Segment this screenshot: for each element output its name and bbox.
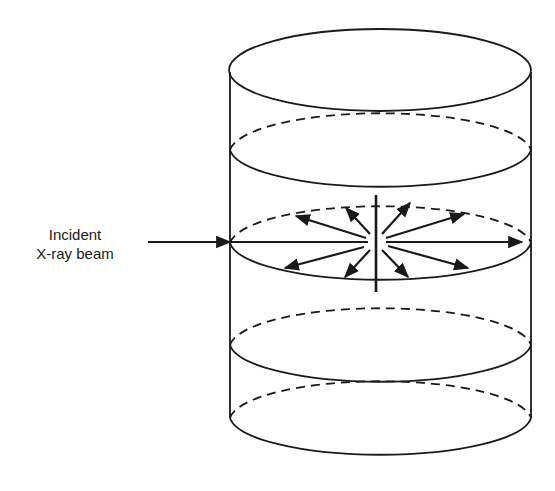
cylinder-bottom-front xyxy=(230,418,531,455)
incident-beam-label: Incident X-ray beam xyxy=(20,225,130,263)
scattered-ray-lower-left xyxy=(285,247,364,268)
xray-scattering-diagram: Incident X-ray beam xyxy=(0,0,555,491)
scattered-ray-down-right xyxy=(382,250,408,277)
slice-3-front xyxy=(230,345,531,382)
scattered-ray-lower-right xyxy=(388,246,468,268)
scattered-ray-up-left xyxy=(346,208,370,234)
scattered-ray-up-right xyxy=(382,203,410,234)
cylinder-bottom-back xyxy=(230,381,531,418)
slice-2-front xyxy=(230,243,531,280)
cylinder-top xyxy=(229,29,531,111)
incident-label-line2: X-ray beam xyxy=(20,244,130,263)
slice-3-back xyxy=(230,308,531,345)
slice-2-back xyxy=(230,206,531,243)
scattered-ray-down-left xyxy=(345,250,370,277)
slice-1-front xyxy=(230,150,531,187)
incident-label-line1: Incident xyxy=(20,225,130,244)
slice-1-back xyxy=(230,113,531,150)
